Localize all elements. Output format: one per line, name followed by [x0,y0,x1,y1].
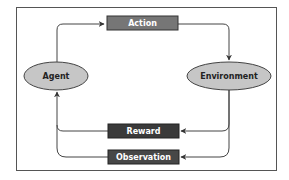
node-observation: Observation [108,150,179,164]
edge-observation-to-agent [57,125,108,157]
edge-reward-to-agent [57,92,108,131]
edge-agent-to-action [57,24,104,62]
node-observation-label: Observation [116,153,171,162]
node-action: Action [107,16,178,30]
node-environment-label: Environment [200,72,258,81]
node-agent: Agent [24,62,88,90]
edge-environment-to-reward [181,90,229,131]
edge-action-to-environment [178,24,229,60]
node-agent-label: Agent [43,72,70,81]
node-reward: Reward [108,124,179,138]
node-action-label: Action [128,19,157,28]
edge-environment-to-observation [181,90,229,157]
node-reward-label: Reward [126,127,160,136]
node-environment: Environment [187,62,271,90]
rl-loop-diagram: Action Agent Environment Reward Observat… [0,0,289,180]
